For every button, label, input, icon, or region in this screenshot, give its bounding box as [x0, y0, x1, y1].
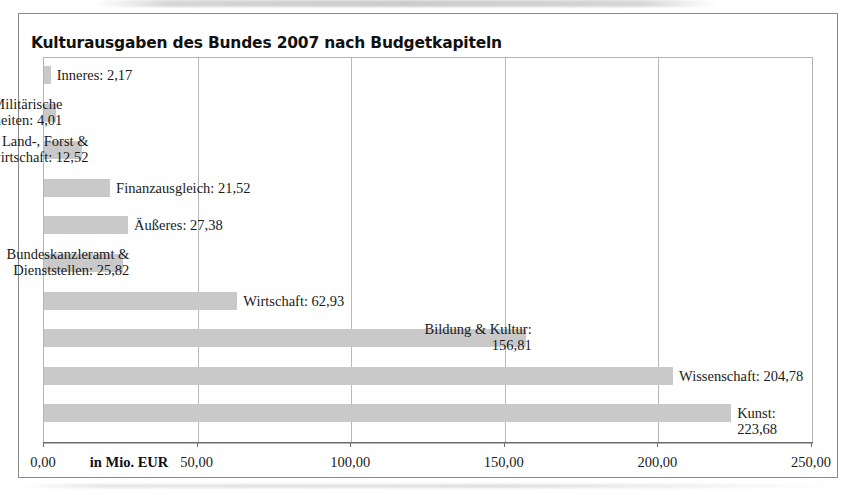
- x-axis-tick-label: 100,00: [330, 454, 370, 471]
- x-axis-tick-label: 200,00: [637, 454, 677, 471]
- chart-title: Kulturausgaben des Bundes 2007 nach Budg…: [31, 34, 502, 52]
- bar: [44, 367, 673, 385]
- bar: [44, 179, 110, 197]
- bar-value-label: Inneres: 2,17: [57, 67, 133, 83]
- bar-row: Militärische Angelegenheiten: 4,01: [44, 104, 812, 122]
- scan-artifact-bottom: [20, 484, 835, 488]
- bar-value-label: Wissenschaft: 204,78: [679, 368, 803, 384]
- x-axis-tick: [811, 442, 812, 447]
- bar-value-label: Wirtschaft: 62,93: [243, 293, 344, 309]
- x-axis-tick-label: 150,00: [484, 454, 524, 471]
- bar-row: Wissenschaft: 204,78: [44, 367, 812, 385]
- bar-value-label: Finanzausgleich: 21,52: [116, 180, 251, 196]
- x-axis-tick: [43, 442, 44, 447]
- x-axis-tick-label: 50,00: [180, 454, 213, 471]
- x-axis-unit-label: in Mio. EUR: [90, 454, 169, 471]
- bar-row: Äußeres: 27,38: [44, 216, 812, 234]
- scan-artifact-top: [95, 0, 715, 7]
- bar: [44, 66, 51, 84]
- bar-value-label: Kunst: 223,68: [737, 405, 812, 437]
- x-axis-tick: [504, 442, 505, 447]
- x-axis-tick-labels: in Mio. EUR 0,0050,00100,00150,00200,002…: [19, 454, 839, 476]
- bar-value-label: Militärische Angelegenheiten: 4,01: [0, 96, 62, 128]
- bar-value-label: Bundeskanzleramt & Dienststellen: 25,82: [0, 246, 129, 278]
- bar-row: Bildung & Kultur: 156,81: [44, 329, 812, 347]
- bar-row: Land-, Forst & Wasserwirtschaft: 12,52: [44, 141, 812, 159]
- bar-value-label: Bildung & Kultur: 156,81: [342, 321, 532, 353]
- x-axis-tick: [350, 442, 351, 447]
- bar-row: Inneres: 2,17: [44, 66, 812, 84]
- chart-page: Kulturausgaben des Bundes 2007 nach Budg…: [0, 0, 855, 495]
- bar-row: Finanzausgleich: 21,52: [44, 179, 812, 197]
- x-axis-tick-label: 0,00: [30, 454, 55, 471]
- bar-row: Bundeskanzleramt & Dienststellen: 25,82: [44, 254, 812, 272]
- x-axis-tick: [197, 442, 198, 447]
- chart-frame: Kulturausgaben des Bundes 2007 nach Budg…: [18, 13, 838, 478]
- bar-value-label: Land-, Forst & Wasserwirtschaft: 12,52: [0, 133, 88, 165]
- bar: [44, 404, 731, 422]
- bar-row: Kunst: 223,68: [44, 404, 812, 422]
- x-axis-tick-label: 250,00: [791, 454, 831, 471]
- bar: [44, 292, 237, 310]
- bar-value-label: Äußeres: 27,38: [134, 217, 223, 233]
- plot-area: Inneres: 2,17Militärische Angelegenheite…: [43, 57, 813, 444]
- bar: [44, 216, 128, 234]
- x-axis-tick: [657, 442, 658, 447]
- bar-row: Wirtschaft: 62,93: [44, 292, 812, 310]
- x-axis-line: [43, 442, 813, 443]
